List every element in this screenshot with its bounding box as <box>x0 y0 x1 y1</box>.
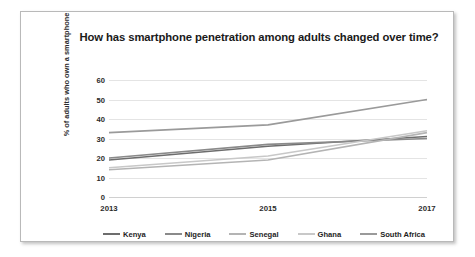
y-axis-tick-labels: 0102030405060 <box>77 80 105 197</box>
x-tick-label: 2015 <box>259 204 276 213</box>
series-line-ghana <box>109 131 427 168</box>
legend-swatch <box>298 233 315 235</box>
y-axis-title: % of adults who own a smartphone <box>62 5 71 145</box>
legend-swatch <box>103 233 120 235</box>
y-tick-label: 20 <box>79 154 105 163</box>
y-tick-label: 40 <box>79 115 105 124</box>
chart-title: How has smartphone penetration among adu… <box>61 29 457 45</box>
y-tick-label: 10 <box>79 173 105 182</box>
plot-area <box>109 80 427 197</box>
y-tick-label: 30 <box>79 134 105 143</box>
x-tick-label: 2017 <box>418 204 435 213</box>
x-axis-line <box>109 197 427 198</box>
y-tick-label: 60 <box>79 76 105 85</box>
legend-item-ghana[interactable]: Ghana <box>298 230 342 239</box>
series-line-south-africa <box>109 100 427 133</box>
chart-lines <box>109 80 427 197</box>
legend-swatch <box>360 233 377 235</box>
legend-item-senegal[interactable]: Senegal <box>229 230 278 239</box>
legend-item-kenya[interactable]: Kenya <box>103 230 146 239</box>
chart-frame: How has smartphone penetration among adu… <box>20 11 454 242</box>
legend-swatch <box>165 233 182 235</box>
legend-item-nigeria[interactable]: Nigeria <box>165 230 211 239</box>
legend-label: Senegal <box>249 230 278 239</box>
legend-label: Kenya <box>123 230 146 239</box>
x-tick-label: 2013 <box>100 204 117 213</box>
y-tick-label: 50 <box>79 95 105 104</box>
x-axis-tick-labels: 201320152017 <box>109 204 427 216</box>
chart-legend: KenyaNigeriaSenegalGhanaSouth Africa <box>99 225 429 243</box>
legend-item-south-africa[interactable]: South Africa <box>360 230 425 239</box>
legend-label: Ghana <box>318 230 342 239</box>
y-tick-label: 0 <box>79 193 105 202</box>
legend-swatch <box>229 233 246 235</box>
legend-label: South Africa <box>380 230 425 239</box>
legend-label: Nigeria <box>185 230 211 239</box>
